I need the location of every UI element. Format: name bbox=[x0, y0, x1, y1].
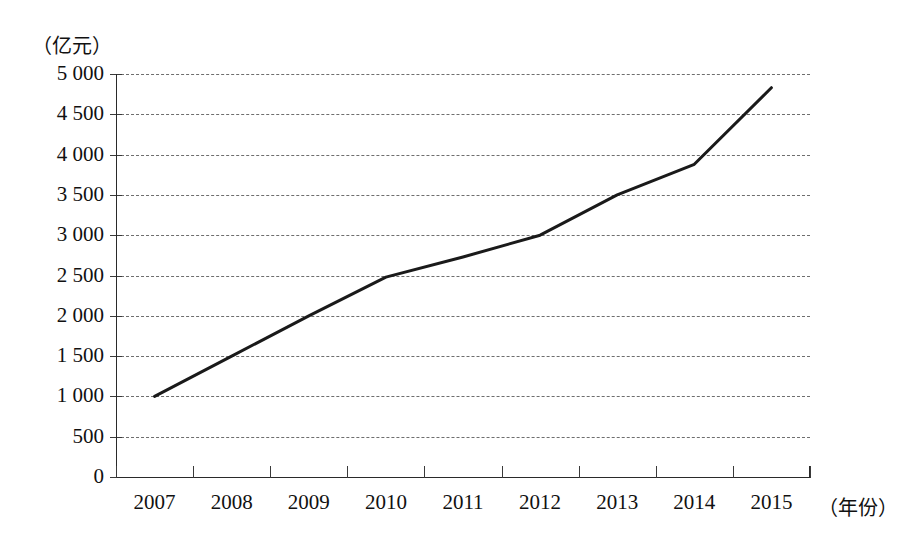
x-axis-tick bbox=[193, 466, 194, 478]
x-axis-tick bbox=[347, 466, 348, 478]
gridline bbox=[116, 437, 810, 438]
y-axis-tick-labels: 05001 0001 5002 0002 5003 0003 5004 0004… bbox=[0, 0, 104, 546]
x-axis-tick bbox=[656, 466, 657, 478]
x-axis-tick bbox=[579, 466, 580, 478]
x-axis-tick bbox=[116, 466, 117, 478]
y-axis-tick-label: 0 bbox=[4, 466, 104, 487]
x-axis-line bbox=[116, 477, 811, 478]
gridline bbox=[116, 356, 810, 357]
gridline bbox=[116, 316, 810, 317]
y-axis-tick-label: 2 000 bbox=[4, 305, 104, 326]
x-axis-tick bbox=[270, 466, 271, 478]
line-chart: （亿元） 05001 0001 5002 0002 5003 0003 5004… bbox=[0, 0, 897, 546]
gridline bbox=[116, 235, 810, 236]
gridline bbox=[116, 396, 810, 397]
gridline bbox=[116, 155, 810, 156]
y-axis-tick-label: 4 500 bbox=[4, 103, 104, 124]
y-axis-line bbox=[116, 74, 117, 478]
gridline bbox=[116, 114, 810, 115]
y-axis-tick-label: 5 000 bbox=[4, 63, 104, 84]
x-axis-tick bbox=[810, 466, 811, 478]
y-axis-tick-label: 2 500 bbox=[4, 265, 104, 286]
y-axis-tick-label: 500 bbox=[4, 426, 104, 447]
x-axis-tick bbox=[502, 466, 503, 478]
y-axis-tick-label: 1 000 bbox=[4, 385, 104, 406]
y-axis-tick-label: 3 000 bbox=[4, 224, 104, 245]
y-axis-tick-label: 3 500 bbox=[4, 184, 104, 205]
y-axis-tick-label: 1 500 bbox=[4, 345, 104, 366]
plot-area bbox=[116, 74, 810, 477]
gridline bbox=[116, 195, 810, 196]
y-axis-tick-label: 4 000 bbox=[4, 144, 104, 165]
gridline bbox=[116, 276, 810, 277]
x-axis-tick-label: 2015 bbox=[726, 491, 816, 513]
x-axis-tick bbox=[733, 466, 734, 478]
x-axis-unit-label: （年份） bbox=[818, 492, 897, 521]
x-axis-tick bbox=[424, 466, 425, 478]
gridline bbox=[116, 74, 810, 75]
